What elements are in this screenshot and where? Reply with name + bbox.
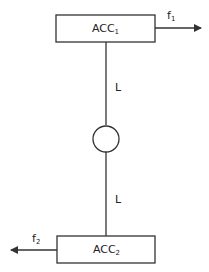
bottom-force-label-subscript: 2 — [36, 238, 40, 246]
bottom-box-label-text: ACC — [93, 243, 116, 256]
bottom-force-label: f2 — [32, 233, 40, 246]
top-box-label-subscript: 1 — [115, 28, 119, 36]
bottom-box-label: ACC2 — [57, 244, 156, 257]
lower-link-label: L — [115, 194, 121, 205]
top-box-label-text: ACC — [92, 22, 115, 35]
joint-circle — [93, 126, 119, 152]
bottom-box-label-subscript: 2 — [116, 249, 120, 257]
upper-link-label: L — [115, 82, 121, 93]
top-box-label: ACC1 — [56, 23, 155, 36]
top-force-label: f1 — [167, 10, 175, 23]
top-force-label-subscript: 1 — [171, 15, 175, 23]
